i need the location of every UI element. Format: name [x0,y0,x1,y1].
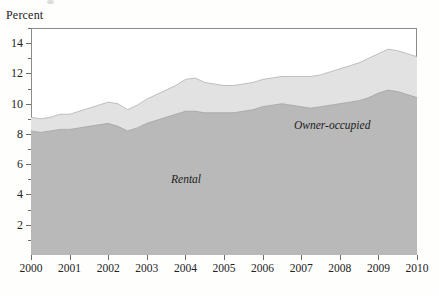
x-tick-major [185,255,186,260]
x-tick-major [224,255,225,260]
y-tick-label: 4 [1,187,23,202]
y-tick-label: 12 [1,66,23,81]
x-tick-label: 2000 [11,262,51,274]
y-tick-major [26,134,31,135]
y-tick-major [26,104,31,105]
y-tick-label: 10 [1,96,23,111]
y-tick-label: 8 [1,126,23,141]
stacked-area-plot [31,28,417,255]
y-tick-minor [28,28,31,29]
plot-area: Rental Owner-occupied [31,28,417,255]
y-tick-label: 6 [1,157,23,172]
y-tick-major [26,164,31,165]
x-tick-major [31,255,32,260]
y-tick-minor [28,119,31,120]
x-tick-label: 2005 [204,262,244,274]
x-tick-major [70,255,71,260]
x-tick-label: 2004 [165,262,205,274]
y-tick-minor [28,240,31,241]
series-label-rental: Rental [171,173,201,185]
x-tick-major [378,255,379,260]
y-tick-label: 2 [1,217,23,232]
y-tick-minor [28,210,31,211]
series-label-owner-occupied: Owner-occupied [294,119,370,131]
y-tick-major [26,73,31,74]
y-tick-minor [28,149,31,150]
x-tick-label: 2009 [358,262,398,274]
x-tick-major [417,255,418,260]
x-tick-label: 2008 [320,262,360,274]
x-tick-label: 2006 [243,262,283,274]
x-tick-label: 2003 [127,262,167,274]
y-tick-minor [28,58,31,59]
y-tick-minor [28,179,31,180]
y-tick-minor [28,89,31,90]
x-tick-major [108,255,109,260]
y-tick-label: 14 [1,36,23,51]
y-tick-major [26,225,31,226]
y-tick-major [26,194,31,195]
x-tick-label: 2010 [397,262,437,274]
x-tick-major [301,255,302,260]
scan-artifact-speck [47,0,54,4]
x-tick-major [263,255,264,260]
x-tick-major [147,255,148,260]
x-tick-label: 2001 [50,262,90,274]
area-series-group [31,49,417,255]
y-axis-title: Percent [6,8,43,23]
chart-figure: Percent Rental Owner-occupied 2468101214… [0,0,439,295]
x-tick-major [340,255,341,260]
x-tick-label: 2002 [88,262,128,274]
y-tick-major [26,43,31,44]
x-tick-label: 2007 [281,262,321,274]
